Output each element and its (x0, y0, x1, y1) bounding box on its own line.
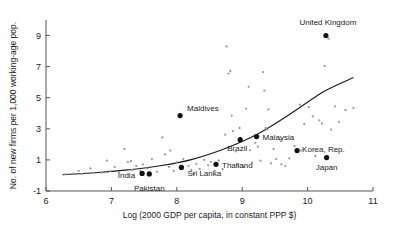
data-point (308, 106, 310, 108)
y-tick-label: 7 (36, 62, 41, 72)
data-point (168, 166, 170, 168)
data-point-highlighted (295, 148, 300, 153)
data-point-highlighted (213, 162, 218, 167)
data-point (227, 72, 229, 74)
x-tick-label: 9 (240, 196, 245, 206)
data-point-highlighted (238, 137, 243, 142)
data-point (127, 161, 129, 163)
data-point (327, 38, 329, 40)
data-point (218, 160, 220, 162)
x-tick-label: 10 (303, 196, 313, 206)
data-point (187, 165, 189, 167)
data-point (151, 158, 153, 160)
y-axis-title: No. of new firms per 1,000 working-age p… (8, 22, 18, 189)
data-point (156, 170, 158, 172)
data-point (195, 163, 197, 165)
x-axis-title: Log (2000 GDP per capita, in constant PP… (123, 210, 297, 220)
data-point (259, 160, 261, 162)
data-point (263, 90, 265, 92)
data-point (330, 128, 332, 130)
data-point (299, 104, 301, 106)
data-point (249, 149, 251, 151)
data-point (114, 166, 116, 168)
data-point (334, 105, 336, 107)
y-tick-label: -1 (33, 186, 41, 196)
data-point (142, 163, 144, 165)
data-point (130, 160, 132, 162)
data-point (224, 134, 226, 136)
data-point-label: India (118, 171, 136, 180)
x-tick-label: 8 (174, 196, 179, 206)
data-point (135, 165, 137, 167)
data-point-highlighted (324, 155, 329, 160)
data-point (303, 123, 305, 125)
data-point-highlighted (179, 165, 184, 170)
scatter-plot-svg: 67891011-113579 United KingdomMaldivesMa… (0, 0, 398, 234)
data-point (293, 145, 295, 147)
data-point (64, 173, 66, 175)
data-point (81, 173, 83, 175)
y-tick-label: 9 (36, 31, 41, 41)
data-point (284, 165, 286, 167)
data-point (210, 161, 212, 163)
data-point (231, 114, 233, 116)
data-point-highlighted (323, 33, 328, 38)
data-point (344, 109, 346, 111)
data-point (314, 155, 316, 157)
data-point-label: Sri Lanka (187, 169, 221, 178)
data-point (123, 148, 125, 150)
y-tick-label: 1 (36, 155, 41, 165)
data-point-label: Maldives (187, 104, 219, 113)
data-point (280, 163, 282, 165)
data-point (270, 162, 272, 164)
data-point (92, 172, 94, 174)
data-point-label: Pakistan (134, 184, 165, 193)
y-tick-label: 5 (36, 93, 41, 103)
data-point (232, 130, 234, 132)
data-point (318, 119, 320, 121)
data-point (266, 128, 268, 130)
data-point-highlighted (254, 134, 259, 139)
data-point (176, 161, 178, 163)
data-point (238, 127, 240, 129)
data-point (164, 153, 166, 155)
data-point (146, 167, 148, 169)
data-point-label: Malaysia (263, 133, 295, 142)
data-point-label: United Kingdom (299, 18, 356, 27)
data-point (257, 146, 259, 148)
data-point (109, 170, 111, 172)
x-tick-label: 11 (368, 196, 377, 206)
data-point (288, 157, 290, 159)
data-point (72, 172, 74, 174)
data-point (272, 148, 274, 150)
data-point (106, 160, 108, 162)
data-point-highlighted (178, 113, 183, 118)
data-point (312, 115, 314, 117)
x-tick-label: 7 (109, 196, 114, 206)
data-point (245, 107, 247, 109)
data-point (161, 136, 163, 138)
data-point (172, 170, 174, 172)
data-point-label: Thailand (222, 161, 253, 170)
data-point-label: Korea, Rep. (302, 145, 345, 154)
data-point-highlighted (147, 171, 152, 176)
data-point (100, 172, 102, 174)
data-point (323, 65, 325, 67)
data-point-highlighted (140, 171, 145, 176)
data-point (338, 121, 340, 123)
data-point (352, 107, 354, 109)
data-point (229, 70, 231, 72)
data-point (169, 149, 171, 151)
data-point-label: Japan (316, 163, 338, 172)
data-point (182, 158, 184, 160)
data-point (78, 170, 80, 172)
data-point (254, 142, 256, 144)
y-tick-label: 3 (36, 124, 41, 134)
x-tick-label: 6 (43, 196, 48, 206)
data-point (275, 158, 277, 160)
data-point (267, 108, 269, 110)
data-point-label: Brazil (227, 144, 247, 153)
data-point (207, 164, 209, 166)
data-point (203, 159, 205, 161)
data-point (262, 71, 264, 73)
